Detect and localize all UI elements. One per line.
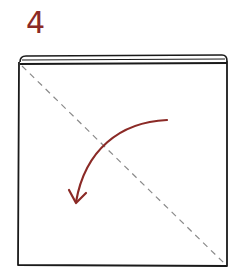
folded-top-edge	[20, 55, 227, 64]
fold-arrow-icon	[69, 120, 167, 203]
dashed-diagonal-fold-line	[22, 66, 224, 263]
fold-diagram	[0, 0, 241, 272]
